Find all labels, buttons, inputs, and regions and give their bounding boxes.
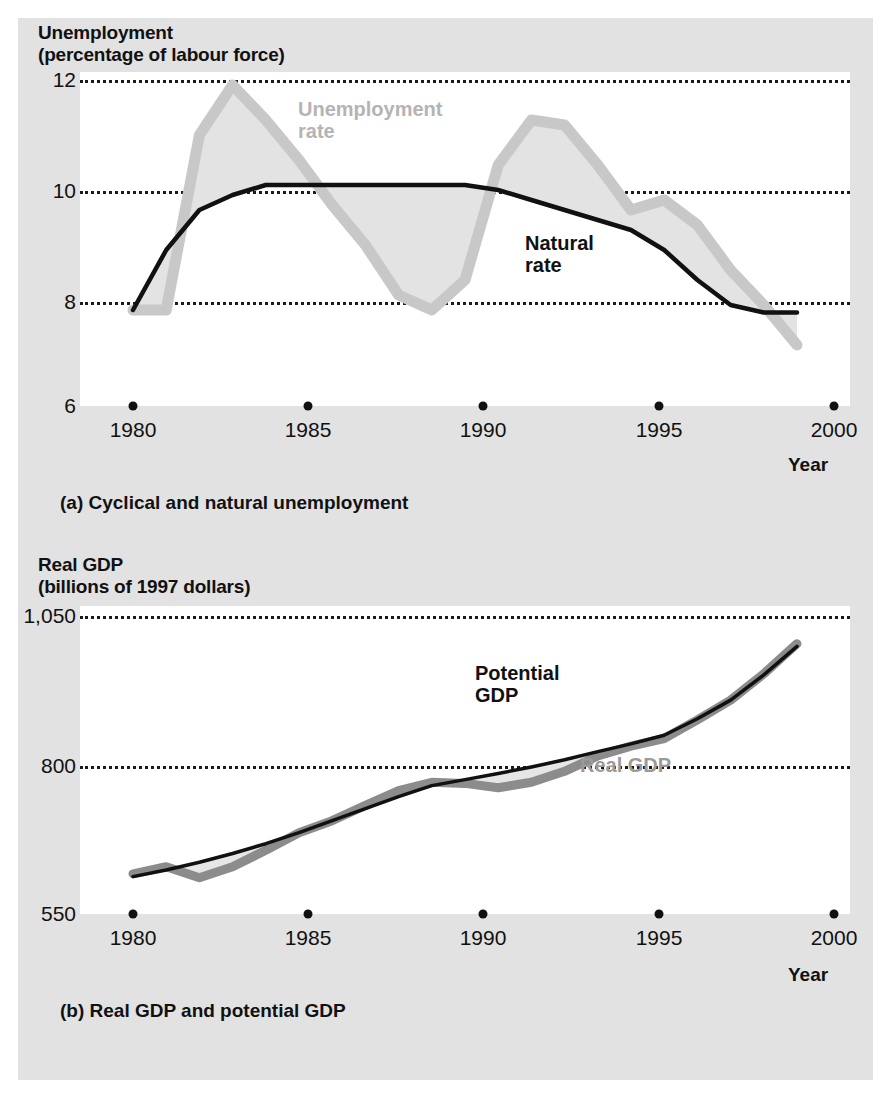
unemployment-rate-series-label: Unemployment rate (298, 98, 442, 143)
potential-gdp-label-line1: Potential (475, 662, 559, 684)
panel-b-xtick-2000: 2000 (811, 926, 858, 950)
panel-a-xtick-1985: 1985 (285, 418, 332, 442)
unemployment-rate-label-line1: Unemployment (298, 98, 442, 120)
panel-a-xtick-1990: 1990 (460, 418, 507, 442)
panel-a-ytick-10: 10 (53, 179, 76, 203)
panel-b-xtick-1990: 1990 (460, 926, 507, 950)
real-gdp-series-label: Real GDP (580, 754, 671, 776)
panel-a-xtick-1980: 1980 (110, 418, 157, 442)
panel-a-ytick-12: 12 (53, 68, 76, 92)
panel-a-series-svg (80, 72, 850, 406)
panel-b-xtick-dot-2000 (830, 910, 839, 919)
natural-rate-label-line1: Natural (525, 232, 594, 254)
panel-cyclical-and-natural-unemployment: Unemployment (percentage of labour force… (18, 18, 873, 528)
panel-a-xtick-dot-1980 (129, 402, 138, 411)
panel-b-xtick-dot-1980 (129, 910, 138, 919)
panel-b-xtick-1985: 1985 (285, 926, 332, 950)
panel-a-ytick-6: 6 (64, 394, 76, 418)
output-gap-fill (133, 644, 797, 878)
panel-b-y-axis-title: Real GDP (billions of 1997 dollars) (38, 554, 250, 598)
panel-a-caption: (a) Cyclical and natural unemployment (60, 492, 408, 514)
panel-b-xtick-1995: 1995 (636, 926, 683, 950)
panel-b-xtick-1980: 1980 (110, 926, 157, 950)
panel-b-y-axis-title-line2: (billions of 1997 dollars) (38, 576, 250, 598)
panel-real-gdp-and-potential-gdp: Real GDP (billions of 1997 dollars) 1,05… (18, 548, 873, 1080)
natural-rate-label-line2: rate (525, 254, 562, 276)
panel-a-xtick-dot-2000 (830, 402, 839, 411)
panel-b-plot-area: Potential GDP Real GDP (80, 606, 850, 914)
panel-a-xtick-1995: 1995 (636, 418, 683, 442)
unemployment-rate-label-line2: rate (298, 120, 335, 142)
natural-rate-series-label: Natural rate (525, 232, 594, 277)
panel-a-ytick-8: 8 (64, 290, 76, 314)
panel-b-caption: (b) Real GDP and potential GDP (60, 1000, 346, 1022)
panel-b-xtick-dot-1985 (304, 910, 313, 919)
potential-gdp-series-label: Potential GDP (475, 662, 559, 707)
panel-a-plot-area: Unemployment rate Natural rate (80, 72, 850, 406)
panel-a-xtick-dot-1990 (479, 402, 488, 411)
panel-a-y-axis-title-line1: Unemployment (38, 22, 173, 43)
panel-a-xtick-2000: 2000 (811, 418, 858, 442)
potential-gdp-label-line2: GDP (475, 684, 518, 706)
panel-a-xtick-dot-1985 (304, 402, 313, 411)
panel-b-y-axis-title-line1: Real GDP (38, 554, 123, 575)
cyclical-unemployment-fill (133, 85, 797, 345)
panel-a-y-axis-title: Unemployment (percentage of labour force… (38, 22, 285, 66)
panel-a-y-axis-title-line2: (percentage of labour force) (38, 44, 285, 66)
panel-b-xtick-dot-1995 (655, 910, 664, 919)
panel-b-ytick-550: 550 (41, 902, 76, 926)
real-gdp-line (133, 644, 797, 878)
panel-b-series-svg (80, 606, 850, 914)
potential-gdp-line (133, 646, 797, 876)
panel-b-x-axis-label: Year (788, 964, 828, 986)
panel-a-xtick-dot-1995 (655, 402, 664, 411)
figure-container: Unemployment (percentage of labour force… (18, 18, 873, 1080)
panel-b-xtick-dot-1990 (479, 910, 488, 919)
panel-b-ytick-800: 800 (41, 754, 76, 778)
panel-b-y-tick-labels: 1,050 800 550 (18, 606, 76, 914)
panel-a-y-tick-labels: 12 10 8 6 (18, 72, 76, 406)
panel-b-ytick-1050: 1,050 (23, 604, 76, 628)
panel-a-x-axis-label: Year (788, 454, 828, 476)
